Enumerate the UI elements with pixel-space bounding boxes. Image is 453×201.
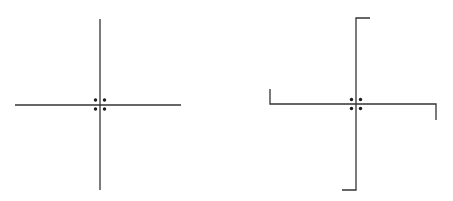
dot [350,107,353,110]
dot [94,98,97,101]
plain-cross-figure [15,19,181,190]
dot [359,98,362,101]
hooked-cross-figure [270,18,436,190]
dot [103,98,106,101]
dot [103,107,106,110]
dot [94,107,97,110]
diagram-canvas [0,0,453,201]
horizontal-hooked-line [270,89,436,120]
dot [350,98,353,101]
dot [359,107,362,110]
